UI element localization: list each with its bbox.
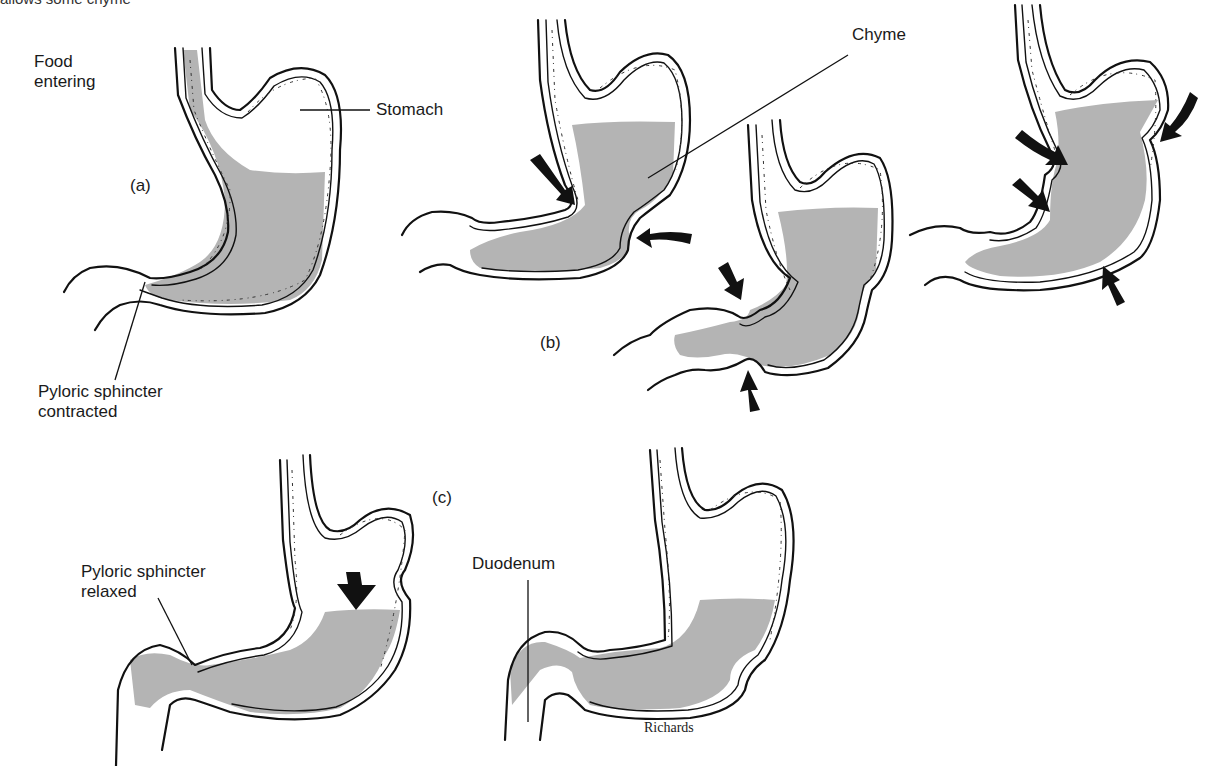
arrow-icon bbox=[718, 262, 744, 300]
label-pyloric-contracted-line1: Pyloric sphincter bbox=[38, 382, 163, 402]
pyloric-contracted-leader-line bbox=[115, 282, 145, 380]
label-pyloric-relaxed-line2: relaxed bbox=[81, 582, 206, 602]
label-food-entering: Food entering bbox=[34, 52, 95, 92]
label-pyloric-contracted-line2: contracted bbox=[38, 402, 163, 422]
label-duodenum: Duodenum bbox=[472, 554, 555, 574]
stomach-a bbox=[64, 48, 341, 330]
label-pyloric-relaxed: Pyloric sphincter relaxed bbox=[81, 562, 206, 602]
label-pyloric-contracted: Pyloric sphincter contracted bbox=[38, 382, 163, 422]
label-food-line1: Food bbox=[34, 52, 95, 72]
stomach-c2 bbox=[505, 448, 794, 740]
label-chyme: Chyme bbox=[852, 25, 906, 45]
stomach-b1 bbox=[402, 20, 692, 279]
label-stomach: Stomach bbox=[376, 100, 443, 120]
label-pyloric-relaxed-line1: Pyloric sphincter bbox=[81, 562, 206, 582]
arrow-icon bbox=[740, 370, 760, 412]
panel-label-a: (a) bbox=[130, 176, 151, 196]
arrow-icon bbox=[337, 572, 376, 610]
chyme-fill-c1 bbox=[130, 609, 400, 714]
panel-label-c: (c) bbox=[432, 488, 452, 508]
stomach-b3 bbox=[910, 5, 1198, 306]
stomach-diagram-artwork bbox=[0, 0, 1230, 766]
artist-credit: Richards bbox=[644, 720, 694, 736]
panel-label-b: (b) bbox=[540, 333, 561, 353]
arrow-icon bbox=[636, 228, 692, 248]
stomach-c1 bbox=[116, 455, 413, 766]
label-food-line2: entering bbox=[34, 72, 95, 92]
chyme-fill-a bbox=[145, 50, 325, 304]
chyme-leader-line bbox=[648, 55, 848, 178]
chyme-fill-b3 bbox=[965, 100, 1158, 277]
chyme-fill-b2 bbox=[674, 208, 878, 368]
